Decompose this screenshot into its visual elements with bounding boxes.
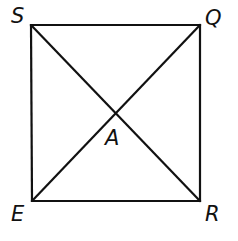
square-diagram-svg: S Q R E A [0, 0, 238, 241]
intersection-label-A: A [103, 126, 119, 150]
vertex-label-E: E [11, 202, 25, 226]
vertex-label-S: S [11, 4, 24, 28]
vertex-label-Q: Q [205, 6, 222, 30]
geometry-diagram: S Q R E A [0, 0, 238, 241]
vertex-label-R: R [205, 202, 220, 226]
segment-ES [31, 25, 32, 201]
